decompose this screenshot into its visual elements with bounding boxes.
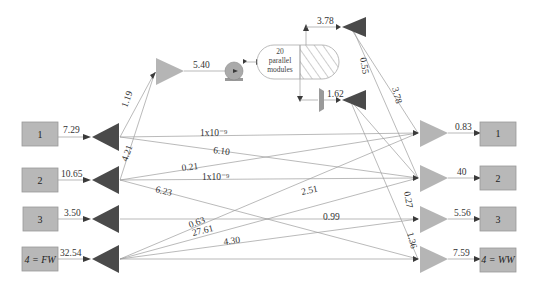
flow-label-s3-k1: 0.21 — [181, 161, 199, 173]
sink-label-1: 1 — [496, 128, 501, 139]
pump-icon — [225, 59, 256, 81]
permeate-splitter-icon — [342, 17, 366, 37]
reject-flow-label: 1.62 — [327, 89, 344, 99]
source-flow-1: 7.29 — [63, 125, 80, 135]
splitter-icon — [92, 123, 119, 151]
edge-permeate-k1 — [350, 27, 418, 133]
sink-4: 7.59 4 = WW — [413, 246, 516, 273]
membrane-module-icon: 20 parallel modules — [257, 45, 339, 79]
valve-icon — [319, 88, 324, 112]
source-flow-4: 32.54 — [60, 248, 82, 258]
pump-flow-label: 5.40 — [193, 60, 210, 70]
edge-s4-k3 — [120, 219, 418, 259]
source-2: 2 10.65 — [22, 166, 119, 194]
sink-label-2: 2 — [496, 173, 501, 184]
regen-inflow-label-1: 1.19 — [119, 89, 134, 108]
sink-flow-3: 5.56 — [454, 208, 471, 218]
source-label-2: 2 — [38, 175, 43, 186]
mixer-icon — [420, 165, 448, 192]
sink-label-4: 4 = WW — [481, 254, 516, 265]
sink-1: 0.83 1 — [413, 120, 516, 147]
source-flow-2: 10.65 — [61, 169, 83, 179]
reject-split-label-2: 1.36 — [405, 231, 419, 250]
sink-2: 40 2 — [413, 165, 516, 192]
source-flow-3: 3.50 — [64, 208, 81, 218]
source-label-4: 4 = FW — [24, 254, 57, 265]
edge-s2-regen — [120, 72, 155, 180]
edge-s2-k2 — [120, 178, 418, 180]
flow-label-s4-k4: 4.30 — [223, 235, 241, 247]
flow-label-s2-k2: 1x10⁻⁹ — [202, 172, 230, 182]
sink-flow-1: 0.83 — [455, 122, 472, 132]
flow-label-s1-k2: 6.10 — [213, 145, 231, 157]
sink-3: 5.56 3 — [413, 206, 516, 233]
edge-s1-k1 — [120, 133, 418, 137]
splitter-icon — [92, 166, 119, 194]
source-label-3: 3 — [38, 214, 43, 225]
edge-s1-k2 — [120, 137, 418, 178]
splitter-icon — [92, 205, 119, 233]
source-3: 3 3.50 — [23, 205, 119, 233]
edge-reject-k2 — [350, 100, 418, 178]
reject-splitter-icon — [342, 90, 366, 110]
source-1: 1 7.29 — [22, 122, 119, 151]
sink-flow-2: 40 — [457, 167, 467, 177]
water-network-diagram: 1 7.29 2 10.65 3 3.50 4 = FW 32.54 5.40 — [0, 0, 540, 289]
sink-flow-4: 7.59 — [453, 248, 470, 258]
regeneration-unit: 5.40 20 parallel modules 3.78 — [150, 16, 366, 112]
flow-label-s4-k1: 2.51 — [300, 184, 319, 197]
edge-s2-k1 — [120, 133, 418, 180]
reject-split-label-1: 0.27 — [402, 191, 415, 209]
source-4: 4 = FW 32.54 — [22, 245, 119, 273]
splitter-icon — [92, 245, 119, 273]
module-text-3: modules — [267, 65, 292, 74]
reject-arrow — [297, 96, 303, 102]
regen-mixer-icon — [156, 58, 184, 85]
flow-label-s3-k3: 0.99 — [323, 212, 340, 222]
module-text-2: parallel — [269, 56, 292, 65]
sink-label-3: 3 — [496, 214, 501, 225]
flow-label-s2-k4: 6.23 — [155, 184, 174, 198]
flow-label-s1-k1: 1x10⁻⁹ — [200, 128, 228, 138]
mixer-icon — [420, 120, 448, 147]
mixer-icon — [420, 206, 448, 233]
permeate-flow-label: 3.78 — [317, 16, 334, 26]
permeate-split-label-1: 0.55 — [358, 57, 371, 75]
source-label-1: 1 — [38, 129, 43, 140]
regen-inflow-label-2: 4.21 — [119, 143, 134, 162]
permeate-arrow — [303, 24, 309, 31]
module-text-1: 20 — [276, 47, 284, 56]
permeate-split-label-2: 3.78 — [390, 86, 404, 105]
mixer-icon — [420, 246, 448, 273]
